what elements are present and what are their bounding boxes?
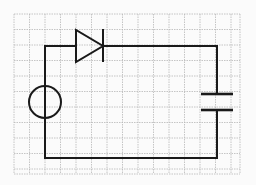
circuit-diagram (0, 0, 256, 185)
circuit-canvas (0, 0, 256, 185)
diode-icon (76, 30, 103, 62)
wire-bottom (45, 110, 217, 158)
wires (45, 46, 217, 158)
components (29, 29, 233, 118)
